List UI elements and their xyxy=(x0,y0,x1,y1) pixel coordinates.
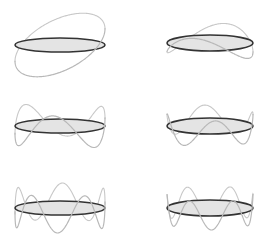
ring-ellipse xyxy=(167,35,253,51)
ring-modes-diagram xyxy=(0,0,269,249)
panels-group xyxy=(15,13,253,233)
ring-ellipse xyxy=(15,119,105,133)
ring-ellipse xyxy=(167,200,253,216)
panel-mode-1 xyxy=(15,13,105,77)
panel-mode-5 xyxy=(15,183,105,233)
ring-ellipse xyxy=(167,118,253,134)
panel-mode-4 xyxy=(167,105,253,145)
ring-ellipse xyxy=(15,38,105,52)
panel-mode-3 xyxy=(15,105,105,148)
panel-mode-6 xyxy=(167,187,253,230)
panel-mode-2 xyxy=(167,23,253,58)
